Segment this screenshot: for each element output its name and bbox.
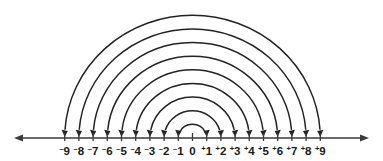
tick-label-digit: 9 [64,145,70,157]
tick-label: –5 [116,144,127,157]
axis-left-arrow-icon [14,134,23,141]
tick-label-digit: 5 [262,145,269,157]
tick-label-group: –9–8–7–6–5–4–3–2–10+1+2+3+4+5+6+7+8+9 [59,144,325,157]
tick-label: 0 [189,145,195,157]
tick-label: –6 [102,144,113,157]
number-line-figure: –9–8–7–6–5–4–3–2–10+1+2+3+4+5+6+7+8+9 [0,0,383,161]
tick-label-digit: 3 [149,145,155,157]
tick-label: –8 [74,144,85,157]
tick-label: +5 [258,144,269,157]
arc-path [180,124,206,132]
tick-label-digit: 1 [206,145,213,157]
tick-label-digit: 7 [291,145,297,157]
tick-label: +8 [301,144,312,157]
tick-group [65,133,321,141]
arc-group [62,15,324,137]
tick-label: +7 [287,144,298,157]
arc-path [108,56,278,130]
tick-label: +1 [201,144,212,157]
tick-label: –2 [159,144,170,157]
tick-label-digit: 8 [305,145,312,157]
tick-label: –4 [130,144,141,157]
tick-label: +3 [230,144,241,157]
tick-label-digit: 2 [163,145,169,157]
tick-label-digit: 6 [277,145,283,157]
tick-label-digit: 8 [78,145,85,157]
tick-label: –9 [59,144,70,157]
tick-label-digit: 3 [234,145,240,157]
tick-label: +9 [315,144,326,157]
tick-label-digit: 5 [120,145,127,157]
tick-label: +6 [272,144,283,157]
tick-label-digit: 4 [135,145,142,157]
arc-path [165,111,219,130]
arc-path [65,15,320,129]
number-line-canvas: –9–8–7–6–5–4–3–2–10+1+2+3+4+5+6+7+8+9 [0,0,383,161]
arc-path [122,70,263,130]
tick-label-digit: 9 [319,145,325,157]
axis-right-arrow-icon [360,134,369,141]
tick-label: –3 [145,144,156,157]
tick-label-digit: 1 [177,145,184,157]
tick-label: –7 [88,144,99,157]
tick-label: –1 [173,144,184,157]
tick-label: +4 [244,144,255,157]
tick-label-digit: 2 [220,145,226,157]
axis-group [14,134,369,141]
tick-label-digit: 7 [92,145,98,157]
tick-label-digit: 0 [189,145,195,157]
tick-label: +2 [216,144,227,157]
tick-label-digit: 4 [248,145,255,157]
tick-label-digit: 6 [106,145,112,157]
